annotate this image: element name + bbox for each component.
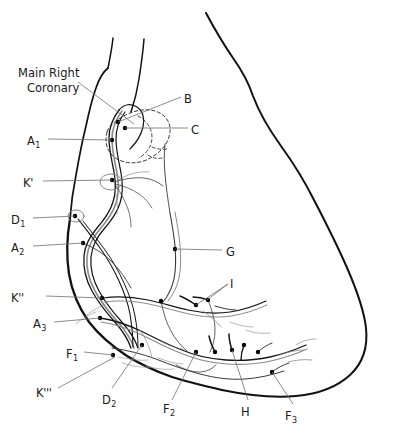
atrial-appendage-inner-fold — [138, 116, 152, 158]
label-text: F — [66, 347, 73, 361]
label-text: A — [33, 317, 41, 331]
annotation-line-1: Main Right — [18, 66, 79, 81]
leader-line-A2 — [33, 243, 83, 246]
distal-twig-5 — [272, 363, 289, 372]
label-D2: D2 — [102, 393, 116, 409]
brush-twig-h — [230, 322, 253, 327]
label-subscript: 3 — [41, 324, 46, 333]
label-text: K''' — [36, 386, 51, 400]
g-vessel-pair — [168, 212, 181, 301]
anatomical-figure: Main Right Coronary BCA1K'D1A2GIK''A3F1K… — [0, 0, 420, 442]
label-text: F — [285, 409, 292, 423]
g-vessel-group — [163, 144, 181, 302]
label-text: C — [191, 123, 199, 137]
label-A2: A2 — [11, 241, 24, 257]
label-subscript: 2 — [111, 400, 116, 409]
i-twig-3 — [215, 306, 236, 310]
label-C: C — [191, 123, 199, 137]
vessel-marker-dot — [242, 343, 246, 347]
label-text: H — [241, 405, 250, 419]
distal-twig-8 — [296, 339, 316, 345]
k-prime-twig-2 — [115, 184, 152, 208]
label-B: B — [184, 92, 192, 106]
label-subscript: 2 — [19, 248, 24, 257]
label-Kppp: K''' — [36, 386, 51, 400]
label-F2: F2 — [163, 402, 175, 418]
label-text: K'' — [11, 291, 24, 305]
label-A3: A3 — [33, 317, 46, 333]
distal-twig-7 — [288, 360, 312, 362]
label-F3: F3 — [285, 409, 297, 425]
annotation-line-2: Coronary — [18, 81, 79, 96]
label-subscript: 1 — [20, 220, 25, 229]
label-subscript: 1 — [73, 354, 78, 363]
leader-line-F3 — [272, 372, 293, 404]
leader-line-F2 — [172, 352, 196, 400]
label-F1: F1 — [66, 347, 78, 363]
label-subscript: 1 — [35, 141, 40, 150]
distal-twig-2 — [229, 334, 232, 350]
vessel-marker-dot — [213, 350, 217, 354]
label-subscript: 3 — [292, 416, 297, 425]
label-text: D — [102, 393, 111, 407]
label-text: B — [184, 92, 192, 106]
label-text: D — [11, 213, 20, 227]
main-right-coronary-annotation: Main Right Coronary — [18, 66, 79, 96]
leader-line-A1 — [48, 139, 112, 140]
label-text: F — [163, 402, 170, 416]
heart-outline-base-notch — [131, 39, 144, 112]
distal-twig-3 — [241, 345, 244, 360]
leader-line-B — [118, 97, 181, 122]
leader-line-G — [175, 249, 222, 250]
leader-line-A3 — [54, 318, 100, 322]
g-vessel-upper-ext — [164, 144, 170, 213]
label-Kpp: K'' — [11, 291, 24, 305]
label-G: G — [226, 245, 235, 259]
label-Kp: K' — [23, 176, 33, 190]
label-text: A — [27, 134, 35, 148]
leader-line-F1 — [84, 352, 113, 355]
vessel-marker-dot — [256, 350, 260, 354]
brush-twig-f — [87, 303, 108, 315]
fine-brush-twigs-group — [76, 303, 270, 372]
leader-line-I — [196, 284, 228, 305]
leader-line-I2 — [207, 284, 228, 300]
distal-twigs-group — [209, 334, 316, 372]
label-D1: D1 — [11, 213, 25, 229]
label-text: G — [226, 245, 235, 259]
label-I: I — [230, 277, 234, 291]
mid-arcade-group — [100, 297, 307, 379]
brush-twig-i — [246, 330, 270, 333]
leader-line-Kp — [43, 180, 112, 181]
label-text: K' — [23, 176, 33, 190]
rca-trunk-halo — [87, 111, 134, 348]
distal-twig-4 — [258, 343, 272, 352]
g-vessel-main — [163, 213, 176, 302]
leader-line-title_annotation — [78, 82, 134, 124]
heart-outline-left-base — [108, 38, 113, 68]
label-text: I — [230, 277, 234, 291]
label-A1: A1 — [27, 134, 40, 150]
label-subscript: 2 — [170, 409, 175, 418]
label-H: H — [241, 405, 250, 419]
vessel-marker-dot — [159, 299, 163, 303]
label-text: A — [11, 241, 19, 255]
